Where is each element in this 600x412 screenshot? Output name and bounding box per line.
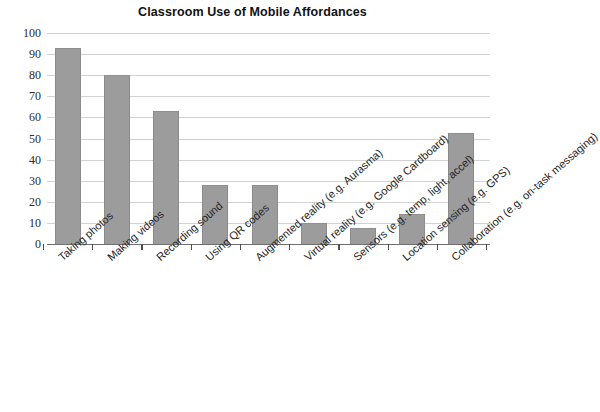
x-axis-tick bbox=[289, 244, 290, 250]
x-axis-tick bbox=[437, 244, 438, 250]
y-axis-tick-label: 80 bbox=[29, 68, 41, 83]
x-axis-tick bbox=[240, 244, 241, 250]
bar bbox=[55, 48, 81, 244]
y-axis-tick-label: 40 bbox=[29, 152, 41, 167]
chart-title: Classroom Use of Mobile Affordances bbox=[0, 5, 505, 19]
x-axis-tick bbox=[486, 244, 487, 250]
x-axis-tick bbox=[338, 244, 339, 250]
y-axis-tick-label: 100 bbox=[23, 26, 41, 41]
y-axis-tick-label: 90 bbox=[29, 47, 41, 62]
x-axis-tick bbox=[43, 244, 44, 250]
y-axis-tick-label: 30 bbox=[29, 173, 41, 188]
y-axis-tick-label: 60 bbox=[29, 110, 41, 125]
x-axis-tick bbox=[191, 244, 192, 250]
y-axis-tick-label: 10 bbox=[29, 215, 41, 230]
y-axis-tick-label: 0 bbox=[35, 237, 41, 252]
y-axis-tick-label: 20 bbox=[29, 194, 41, 209]
y-axis-tick-label: 70 bbox=[29, 89, 41, 104]
y-axis-tick-label: 50 bbox=[29, 131, 41, 146]
x-axis-tick bbox=[388, 244, 389, 250]
x-axis-tick bbox=[141, 244, 142, 250]
x-axis-tick bbox=[92, 244, 93, 250]
bar bbox=[448, 133, 474, 244]
